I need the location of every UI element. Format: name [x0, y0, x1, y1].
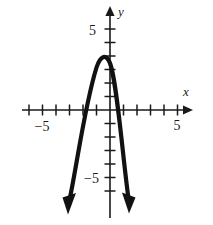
- y-axis-arrow-icon: [105, 6, 114, 16]
- parabola-left-arrow-icon: [63, 193, 77, 215]
- parabola-curve: [70, 57, 129, 200]
- graph-figure: x −5 5 y 5: [0, 0, 213, 225]
- x-axis-label: x: [182, 84, 189, 99]
- coordinate-plane: x −5 5 y 5: [0, 0, 213, 225]
- x-axis-group: x −5 5: [22, 84, 193, 134]
- parabola-right-arrow-icon: [122, 193, 136, 214]
- parabola-curve-group: [63, 57, 136, 214]
- x-tick-label-negative-five: −5: [35, 119, 50, 134]
- y-tick-label-positive-five: 5: [89, 23, 96, 38]
- x-tick-label-positive-five: 5: [174, 118, 181, 133]
- y-tick-label-negative-five: −5: [84, 171, 99, 186]
- y-axis-label: y: [116, 4, 124, 19]
- x-axis-arrow-icon: [183, 105, 193, 114]
